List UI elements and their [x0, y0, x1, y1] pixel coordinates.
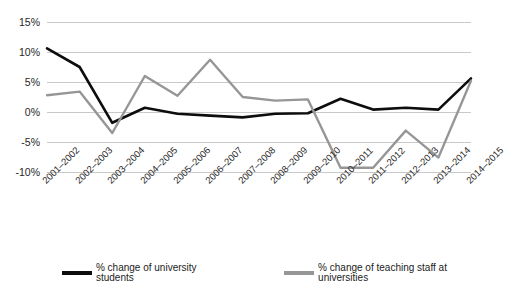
legend-swatch-students-icon — [62, 271, 92, 274]
chart-legend: % change of university students % change… — [0, 262, 478, 284]
legend-label-students: % change of university students — [96, 263, 220, 283]
legend-item-students: % change of university students — [62, 263, 220, 283]
legend-swatch-staff-icon — [284, 271, 314, 274]
legend-label-staff: % change of teaching staff at universiti… — [318, 263, 478, 283]
legend-item-staff: % change of teaching staff at universiti… — [284, 263, 478, 283]
